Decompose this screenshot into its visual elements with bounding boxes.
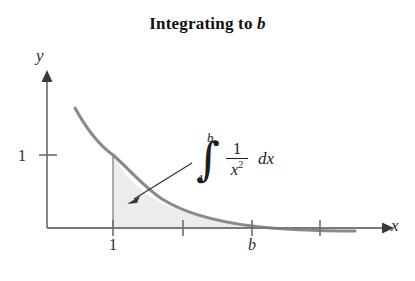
y-axis-arrowhead	[42, 70, 53, 82]
integral-upper-limit: b	[207, 130, 214, 146]
integral-sign-group: b ∫ 1	[196, 131, 220, 187]
y-tick-label-1: 1	[18, 147, 26, 165]
fraction-one-over-x-squared: 1 x2	[226, 140, 248, 178]
integral-lower-limit: 1	[198, 171, 205, 187]
x-tick-label-1: 1	[105, 236, 121, 254]
y-axis-label: y	[36, 46, 44, 66]
fraction-numerator: 1	[233, 140, 242, 158]
calculus-figure: Integrating to b y x 1 1 b b	[0, 0, 415, 281]
fraction-denominator: x2	[231, 159, 244, 178]
x-tick-label-b: b	[244, 236, 260, 254]
differential-dx: dx	[258, 149, 274, 169]
x-axis-label: x	[391, 216, 399, 236]
annotation-leader-line	[134, 163, 192, 199]
denominator-exponent: 2	[238, 159, 243, 170]
integral-expression: b ∫ 1 1 x2 dx	[196, 131, 274, 187]
